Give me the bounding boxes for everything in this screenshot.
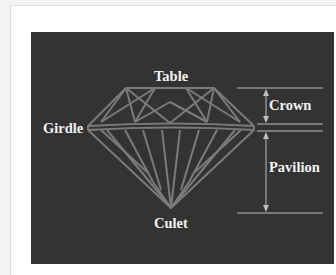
label-crown: Crown (269, 98, 311, 113)
label-girdle: Girdle (43, 121, 83, 136)
label-pavilion: Pavilion (269, 160, 320, 175)
label-culet: Culet (154, 216, 188, 231)
figure-card: Table Girdle Crown Pavilion Culet (10, 5, 336, 275)
diamond-diagram-panel: Table Girdle Crown Pavilion Culet (31, 32, 334, 264)
diamond-facets (88, 88, 254, 208)
label-table: Table (154, 69, 188, 84)
